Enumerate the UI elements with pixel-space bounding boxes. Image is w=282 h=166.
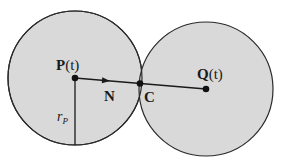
- label-p: P(t): [56, 57, 79, 74]
- label-q-arg: (t): [209, 66, 223, 83]
- tangent-circles-diagram: P(t) N C Q(t) rP: [0, 0, 282, 166]
- label-p-arg: (t): [65, 57, 79, 74]
- point-c: [137, 80, 144, 87]
- diagram-canvas: P(t) N C Q(t) rP: [0, 0, 282, 166]
- label-q: Q(t): [197, 66, 223, 83]
- point-p: [72, 75, 79, 82]
- label-c: C: [144, 89, 155, 105]
- label-n: N: [104, 88, 115, 104]
- point-q: [203, 86, 210, 93]
